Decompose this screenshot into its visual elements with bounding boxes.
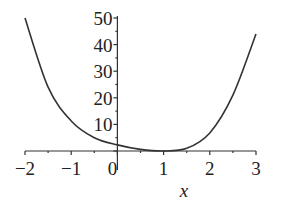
y-tick-label: 50 <box>93 8 112 29</box>
x-tick-label: 0 <box>108 158 118 179</box>
y-tick-label: 10 <box>93 114 112 135</box>
x-tick-label: −1 <box>61 158 81 179</box>
x-axis-label: x <box>179 180 189 201</box>
function-curve <box>25 18 256 151</box>
axes <box>25 16 256 170</box>
y-tick-label: 40 <box>93 35 112 56</box>
plot: −2−101231020304050 x <box>0 0 287 208</box>
x-tick-label: −2 <box>15 158 35 179</box>
x-tick-label: 3 <box>251 158 261 179</box>
x-tick-label: 1 <box>159 158 169 179</box>
y-tick-label: 20 <box>93 88 112 109</box>
x-tick-label: 2 <box>205 158 215 179</box>
y-tick-label: 30 <box>93 61 112 82</box>
